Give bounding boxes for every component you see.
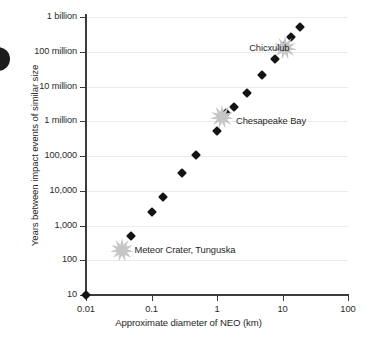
data-point [286,32,296,42]
data-point [221,108,231,118]
y-axis-tick [80,121,86,122]
y-axis-tick-label: 1,000 [55,220,78,230]
y-axis-title: Years between impact events of similar s… [29,26,40,286]
annotation-label: Chesapeake Bay [236,115,306,126]
y-axis-tick-label: 10 [67,289,77,299]
data-point [158,192,168,202]
gridline [86,260,348,261]
gridline [86,87,348,88]
data-point [270,54,280,64]
data-point [177,168,187,178]
annotation-label: Meteor Crater, Tunguska [134,244,235,255]
page-edge-artifact [0,47,10,71]
y-axis-line [85,14,87,296]
gridline [86,52,348,53]
data-point [212,126,222,136]
y-axis-tick [80,191,86,192]
data-point [191,150,201,160]
impact-frequency-chart: 1 billion100 million10 million1 million1… [0,0,377,338]
y-axis-tick-label: 100 [62,254,77,264]
y-axis-tick-label: 100,000 [44,150,77,160]
x-axis-tick [217,295,218,301]
y-axis-tick-label: 1 billion [47,11,77,21]
gridline [86,226,348,227]
y-axis-tick-label: 1 million [44,115,77,125]
x-axis-tick-label: 1 [214,303,219,314]
x-axis-tick-label: 100 [340,303,355,314]
data-point [81,290,91,300]
data-point [230,102,240,112]
y-axis-tick-label: 10 million [39,81,77,91]
data-point [147,207,157,217]
gridline [86,121,348,122]
x-axis-tick [283,295,284,301]
gridline [86,17,348,18]
data-point [257,70,267,80]
x-axis-title: Approximate diameter of NEO (km) [0,317,377,328]
data-point [242,88,252,98]
y-axis-tick [80,156,86,157]
x-axis-tick [348,295,349,301]
data-point [126,231,136,241]
y-axis-tick [80,17,86,18]
x-axis-tick-label: 0.1 [145,303,158,314]
y-axis-tick-label: 100 million [34,46,77,56]
y-axis-tick [80,87,86,88]
y-axis-tick [80,226,86,227]
x-axis-tick [152,295,153,301]
gridline [86,156,348,157]
gridline [86,191,348,192]
data-point [295,22,305,32]
annotation-label: Chicxulub [249,42,289,53]
x-axis-tick-label: 0.01 [77,303,95,314]
y-axis-tick-label: 10,000 [49,185,77,195]
x-axis-tick-label: 10 [277,303,287,314]
y-axis-tick [80,260,86,261]
y-axis-tick [80,52,86,53]
starburst-icon [110,238,134,262]
